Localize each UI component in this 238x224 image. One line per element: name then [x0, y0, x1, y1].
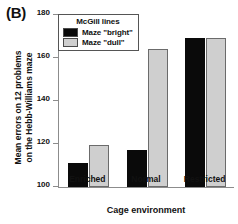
y-tick-label-140: 140: [37, 94, 50, 103]
y-axis-title: Mean errors on 12 problems on the Hebb-W…: [13, 22, 34, 194]
legend-entry-dull: Maze "dull": [63, 38, 133, 47]
y-tick-label-180: 180: [37, 8, 50, 17]
legend-swatch-dull: [63, 38, 78, 47]
legend-label-dull: Maze "dull": [82, 38, 125, 47]
legend-swatch-bright: [63, 28, 78, 37]
panel-label: (B): [6, 4, 26, 21]
x-tick-label-normal: Normal: [114, 174, 179, 184]
legend-label-bright: Maze "bright": [82, 28, 133, 37]
bar-normal-dull: [148, 49, 168, 187]
legend: McGill lines Maze "bright"Maze "dull": [58, 14, 139, 51]
figure-panel-b: (B) Mean errors on 12 problems on the He…: [0, 0, 238, 224]
bar-restricted-bright: [185, 38, 205, 187]
bar-restricted-dull: [206, 38, 226, 187]
x-tick-label-enriched: Enriched: [55, 174, 120, 184]
y-axis-title-line-2: on the Hebb-Williams maze: [23, 22, 34, 194]
y-tick-label-160: 160: [37, 51, 50, 60]
x-axis-title: Cage environment: [58, 205, 234, 215]
bar-group-restricted: [185, 16, 226, 187]
y-tick-label-120: 120: [37, 137, 50, 146]
legend-title: McGill lines: [63, 17, 133, 26]
x-tick-label-restricted: Restricted: [172, 174, 237, 184]
legend-entries: Maze "bright"Maze "dull": [63, 28, 133, 47]
y-axis-title-line-1: Mean errors on 12 problems: [13, 22, 24, 194]
legend-entry-bright: Maze "bright": [63, 28, 133, 37]
y-tick-label-100: 100: [37, 180, 50, 189]
